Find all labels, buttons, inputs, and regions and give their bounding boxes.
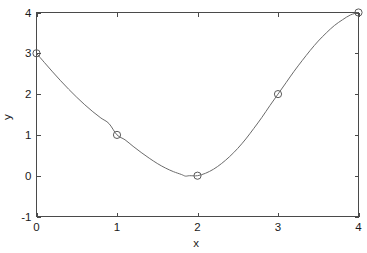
y-tick-label: 4 [25, 7, 32, 19]
y-tick-label: -1 [21, 211, 31, 223]
data-point-markers [33, 9, 362, 179]
x-axis-ticks [38, 13, 360, 217]
plot-area: 01234 -101234 x y [0, 0, 367, 253]
y-tick-label: 1 [25, 129, 31, 141]
x-tick-label: 4 [355, 221, 362, 233]
data-curve-line [37, 13, 359, 177]
y-axis-label: y [1, 114, 13, 120]
x-tick-label: 3 [275, 221, 281, 233]
y-axis-ticks [37, 14, 359, 218]
x-axis-tick-labels: 01234 [33, 221, 362, 233]
y-axis-tick-labels: -101234 [21, 7, 32, 223]
x-axis-label: x [193, 237, 199, 249]
x-tick-label: 1 [114, 221, 120, 233]
y-tick-label: 3 [25, 47, 31, 59]
y-tick-label: 2 [25, 88, 31, 100]
x-tick-label: 0 [33, 221, 39, 233]
y-tick-label: 0 [25, 170, 31, 182]
figure-canvas: 01234 -101234 x y [0, 0, 367, 253]
axes-box [37, 13, 359, 217]
x-tick-label: 2 [194, 221, 200, 233]
